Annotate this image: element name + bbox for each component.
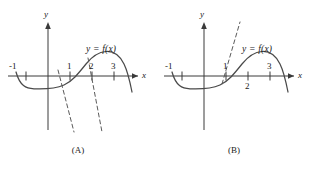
x-axis-arrowhead <box>132 73 138 79</box>
x-tick-label-2: 2 <box>245 82 250 91</box>
x-axis-label: x <box>298 71 302 80</box>
x-tick-label-1: 1 <box>223 62 228 71</box>
function-curve-a <box>16 51 132 92</box>
x-tick-label-3: 3 <box>111 62 116 71</box>
x-tick-label-neg1: -1 <box>165 62 173 71</box>
panel-b-plot <box>156 0 312 150</box>
y-axis-label: y <box>200 10 204 19</box>
panel-a-plot <box>0 0 156 150</box>
x-tick-label-neg1: -1 <box>9 62 17 71</box>
panel-a-caption: (A) <box>0 146 156 155</box>
function-label-a: y = f(x) <box>86 44 116 54</box>
x-axis-label: x <box>142 71 146 80</box>
x-axis-arrowhead <box>288 73 294 79</box>
y-axis-label: y <box>44 10 48 19</box>
panel-b: y x -1 1 2 3 y = f(x) (B) <box>156 0 312 171</box>
function-label-b: y = f(x) <box>242 44 272 54</box>
panel-b-caption: (B) <box>156 146 312 155</box>
x-tick-label-3: 3 <box>267 62 272 71</box>
x-tick-label-1: 1 <box>67 62 72 71</box>
y-axis-arrowhead <box>45 22 51 29</box>
panel-a: y x -1 1 2 3 y = f(x) (A) <box>0 0 156 171</box>
tangent-line-b-1 <box>222 22 240 84</box>
x-tick-label-2: 2 <box>89 62 94 71</box>
figure-container: y x -1 1 2 3 y = f(x) (A) y x <box>0 0 312 171</box>
y-axis-arrowhead <box>201 22 207 29</box>
